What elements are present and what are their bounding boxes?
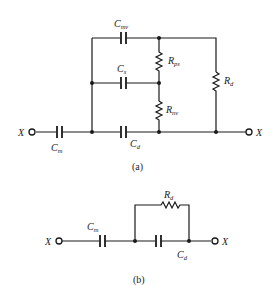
- label-rd: Rd: [223, 75, 234, 87]
- label-rnv: Rnv: [165, 104, 178, 116]
- circuit-b: X X Cm Rd Cd (b): [44, 189, 229, 285]
- terminal-label: X: [221, 236, 229, 247]
- terminal-label: X: [255, 127, 263, 138]
- label-rd-b: Rd: [163, 189, 174, 201]
- junction-node: [133, 239, 137, 243]
- label-cd: Cd: [130, 138, 141, 150]
- terminal-left-a: [29, 129, 35, 135]
- resistor-rps: [156, 38, 162, 83]
- junction-node: [214, 130, 218, 134]
- junction-node: [90, 81, 94, 85]
- junction-node: [157, 36, 161, 40]
- caption-b: (b): [133, 274, 145, 285]
- caption-a: (a): [132, 161, 143, 173]
- terminal-right-a: [246, 129, 252, 135]
- junction-node: [90, 130, 94, 134]
- resistor-rnv: [156, 83, 162, 132]
- terminal-left-b: [56, 238, 62, 244]
- circuit-a: X X Cmv Cs Cd Cm Rps Rnv Rd (a): [17, 18, 263, 173]
- junction-node: [157, 130, 161, 134]
- label-cmv: Cmv: [114, 18, 128, 30]
- label-cd-b: Cd: [177, 249, 188, 261]
- terminal-label: X: [44, 236, 52, 247]
- label-cm: Cm: [51, 142, 63, 154]
- circuit-diagrams: X X Cmv Cs Cd Cm Rps Rnv Rd (a) X X Cm R…: [0, 0, 279, 285]
- label-cs: Cs: [117, 63, 127, 75]
- junction-node: [187, 239, 191, 243]
- terminal-label: X: [17, 127, 25, 138]
- terminal-right-b: [212, 238, 218, 244]
- label-cm-b: Cm: [87, 221, 99, 233]
- resistor-rd: [213, 72, 219, 132]
- resistor-rd-b: [135, 202, 189, 241]
- junction-node: [157, 81, 161, 85]
- label-rps: Rps: [167, 55, 180, 67]
